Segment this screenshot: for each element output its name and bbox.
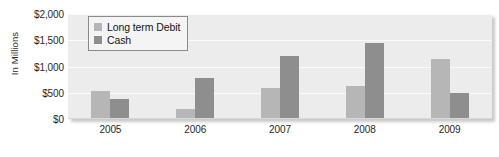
x-axis-tick-label: 2006 [184, 124, 206, 135]
bar[interactable] [91, 91, 110, 119]
bar[interactable] [110, 99, 129, 119]
bar[interactable] [261, 88, 280, 119]
x-axis-line [68, 118, 492, 119]
bar[interactable] [365, 43, 384, 119]
y-axis-tick-label: $1,500 [2, 35, 64, 46]
legend-swatch-icon [94, 36, 102, 44]
bar[interactable] [195, 78, 214, 119]
bar[interactable] [280, 56, 299, 119]
y-axis-tick-label: $500 [2, 87, 64, 98]
bar[interactable] [346, 86, 365, 119]
bar[interactable] [431, 59, 450, 119]
y-axis-tick-label: $2,000 [2, 9, 64, 20]
chart-legend: Long term Debit Cash [88, 16, 188, 51]
legend-item[interactable]: Long term Debit [94, 20, 180, 33]
bar-chart: In Millions $0$500$1,000$1,500$2,000 200… [0, 0, 499, 157]
legend-item-label: Cash [107, 34, 131, 46]
x-axis-tick-label: 2009 [439, 124, 461, 135]
x-axis-tick-label: 2007 [269, 124, 291, 135]
legend-swatch-icon [94, 23, 102, 31]
bar-group [431, 14, 469, 119]
bar-group [346, 14, 384, 119]
x-axis-tick-label: 2005 [99, 124, 121, 135]
legend-item[interactable]: Cash [94, 33, 180, 46]
y-axis-tick-labels: $0$500$1,000$1,500$2,000 [0, 0, 64, 157]
y-axis-tick-label: $0 [2, 114, 64, 125]
bar[interactable] [450, 93, 469, 119]
y-axis-tick-label: $1,000 [2, 61, 64, 72]
bar-group [261, 14, 299, 119]
x-axis-tick-label: 2008 [354, 124, 376, 135]
legend-item-label: Long term Debit [107, 21, 180, 33]
